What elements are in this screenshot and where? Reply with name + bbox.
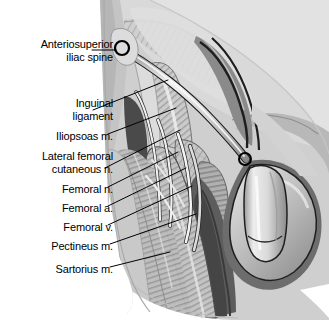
- label-sartorius-m: Sartorius m.: [0, 263, 113, 276]
- label-lateral-femoral-cutaneous-n: Lateral femoral cutaneous n.: [0, 150, 113, 175]
- label-layer: Anteriosuperior iliac spine Inguinal lig…: [0, 0, 329, 320]
- label-inguinal-ligament: Inguinal ligament: [0, 97, 113, 122]
- label-femoral-a: Femoral a.: [0, 202, 113, 215]
- label-femoral-v: Femoral v.: [0, 221, 113, 234]
- label-anteriosuperior-iliac-spine: Anteriosuperior iliac spine: [0, 38, 113, 63]
- anatomy-figure: Anteriosuperior iliac spine Inguinal lig…: [0, 0, 329, 320]
- label-femoral-n: Femoral n.: [0, 183, 113, 196]
- label-iliopsoas-m: Iliopsoas m.: [0, 130, 113, 143]
- label-pectineus-m: Pectineus m.: [0, 240, 113, 253]
